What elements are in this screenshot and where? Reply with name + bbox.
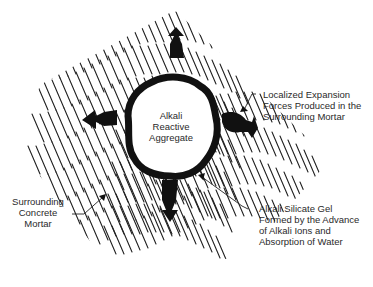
concrete-mortar-label: Surrounding Concrete Mortar [8, 196, 68, 229]
aggregate-label: Alkali Reactive Aggregate [148, 110, 194, 143]
expansion-forces-label: Localized Expansion Forces Produced in t… [263, 89, 361, 122]
diagram-canvas: Alkali Reactive Aggregate Localized Expa… [0, 0, 373, 287]
arrow-left-icon [82, 110, 117, 129]
leader-arrowhead-icon [240, 106, 248, 112]
silicate-gel-label: Alkali Silicate Gel Formed by the Advanc… [259, 203, 359, 247]
arrow-up-icon [168, 27, 184, 58]
